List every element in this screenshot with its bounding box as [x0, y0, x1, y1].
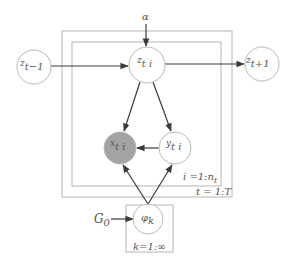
g0-label: G0: [94, 212, 111, 228]
alpha-label: α: [142, 11, 149, 22]
plate-diagram: zt−1 zt i zt+1 xt i yt i φk α G0 i =1:nt…: [0, 0, 294, 265]
edge-z-x: [124, 82, 140, 131]
node-z-next: zt+1: [245, 47, 279, 81]
node-y-ti: yt i: [159, 132, 191, 164]
node-z-ti: zt i: [129, 47, 165, 83]
inner-plate-label: i =1:nt: [183, 171, 218, 185]
component-plate-label: k=1:∞: [133, 241, 166, 252]
node-phi-k: φk: [133, 204, 163, 234]
edge-phi-x: [123, 165, 148, 204]
node-x-ti-observed: xt i: [104, 132, 136, 164]
edge-z-y: [153, 82, 171, 131]
outer-plate-label: t = 1:T: [196, 186, 232, 197]
node-z-prev: zt−1: [17, 50, 51, 84]
edge-phi-y: [148, 165, 172, 204]
